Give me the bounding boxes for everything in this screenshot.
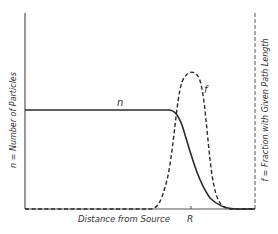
right-axis-label: f = Fraction with Given Path Length: [261, 38, 270, 181]
tick-r-label: R: [187, 214, 193, 224]
left-axis-label: n = Number of Particles: [9, 72, 18, 168]
x-axis-label: Distance from Source: [78, 214, 170, 224]
curve-n-label: n: [117, 97, 123, 108]
n-curve: [25, 110, 255, 209]
curve-f-label: f: [204, 84, 209, 95]
range-distribution-diagram: n f Distance from Source R n = Number of…: [0, 0, 278, 234]
f-curve: [25, 72, 255, 209]
